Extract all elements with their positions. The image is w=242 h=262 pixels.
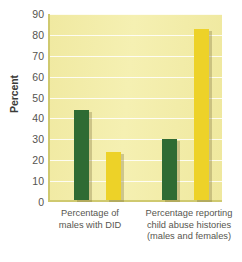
bar-group0-series1 bbox=[106, 152, 121, 200]
gridline-0 bbox=[50, 202, 222, 203]
bars-layer bbox=[50, 14, 222, 200]
y-tick-label-20: 20 bbox=[24, 155, 44, 165]
y-tick-label-10: 10 bbox=[24, 176, 44, 186]
x-category-0-line-0: Percentage of bbox=[42, 208, 138, 220]
bar-chart-figure: Percent 9080706050403020100 Percentage o… bbox=[0, 0, 242, 262]
y-axis-tick-labels: 9080706050403020100 bbox=[24, 14, 44, 202]
y-tick-label-60: 60 bbox=[24, 72, 44, 82]
y-tick-label-70: 70 bbox=[24, 51, 44, 61]
bar-group0-series0 bbox=[74, 110, 89, 200]
x-category-1-line-1: child abuse histories bbox=[136, 220, 242, 232]
plot-area bbox=[48, 14, 222, 202]
y-tick-label-80: 80 bbox=[24, 30, 44, 40]
x-category-1-line-2: (males and females) bbox=[136, 231, 242, 243]
x-axis-category-labels: Percentage ofmales with DID Percentage r… bbox=[48, 208, 242, 262]
bar-group1-series0 bbox=[162, 139, 177, 200]
x-category-label-0: Percentage ofmales with DID bbox=[42, 208, 138, 231]
x-category-0-line-1: males with DID bbox=[42, 220, 138, 232]
y-tick-label-0: 0 bbox=[24, 197, 44, 207]
x-category-1-line-0: Percentage reporting bbox=[136, 208, 242, 220]
y-axis-title: Percent bbox=[8, 64, 20, 124]
y-tick-label-90: 90 bbox=[24, 9, 44, 19]
y-tick-label-40: 40 bbox=[24, 113, 44, 123]
y-tick-label-30: 30 bbox=[24, 134, 44, 144]
y-tick-label-50: 50 bbox=[24, 93, 44, 103]
x-category-label-1: Percentage reportingchild abuse historie… bbox=[136, 208, 242, 243]
bar-group1-series1 bbox=[194, 29, 209, 200]
